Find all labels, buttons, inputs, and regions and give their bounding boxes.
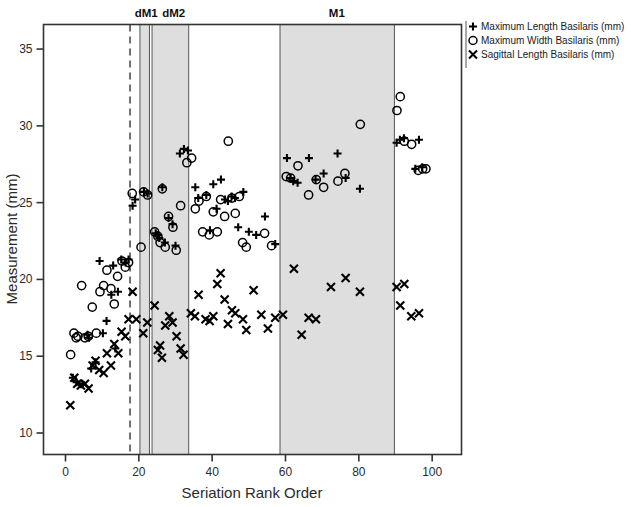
band-label-dM2: dM2 — [162, 7, 185, 19]
y-tick-label: 30 — [19, 119, 33, 133]
data-point — [191, 312, 199, 320]
data-point — [408, 140, 416, 148]
band-dM1 — [140, 25, 150, 455]
scatter-chart: 101520253035 020406080100 dM1dM2M1 Seria… — [0, 0, 631, 507]
data-point — [261, 229, 269, 237]
data-point — [242, 326, 250, 334]
y-axis-ticks: 101520253035 — [19, 42, 43, 440]
data-point — [217, 176, 225, 184]
data-point — [107, 361, 115, 369]
data-point — [113, 272, 121, 280]
data-point — [103, 266, 111, 274]
data-point — [221, 295, 229, 303]
data-point — [396, 302, 404, 310]
band-M1 — [280, 25, 394, 455]
data-point — [224, 320, 232, 328]
y-tick-label: 35 — [19, 42, 33, 56]
x-tick-label: 0 — [62, 465, 69, 479]
data-point — [224, 137, 232, 145]
plot-bands — [140, 25, 394, 455]
data-point — [121, 332, 129, 340]
data-point — [407, 312, 415, 320]
chart-canvas: 101520253035 020406080100 dM1dM2M1 Seria… — [0, 0, 631, 507]
y-tick-label: 10 — [19, 426, 33, 440]
x-axis-title: Seriation Rank Order — [182, 484, 323, 501]
y-tick-label: 25 — [19, 196, 33, 210]
y-tick-label: 20 — [19, 272, 33, 286]
data-point — [110, 340, 118, 348]
data-point — [78, 281, 86, 289]
legend-label: Maximum Length Basilaris (mm) — [481, 21, 624, 32]
data-point — [252, 231, 260, 239]
legend-label: Maximum Width Basilaris (mm) — [481, 35, 619, 46]
data-point — [261, 212, 269, 220]
legend: Maximum Length Basilaris (mm)Maximum Wid… — [466, 21, 624, 68]
data-point — [191, 183, 199, 191]
x-tick-label: 80 — [352, 465, 366, 479]
data-point — [103, 317, 111, 325]
y-tick-label: 15 — [19, 349, 33, 363]
data-point — [221, 212, 229, 220]
data-point — [110, 300, 118, 308]
band-label-dM1: dM1 — [135, 7, 159, 19]
legend-label: Sagittal Length Basilaris (mm) — [481, 49, 614, 60]
band-labels: dM1dM2M1 — [135, 7, 346, 19]
y-axis-title: Measurement (mm) — [3, 174, 20, 305]
legend-marker-plus — [469, 23, 477, 31]
data-point — [217, 269, 225, 277]
data-point — [239, 315, 247, 323]
data-point — [415, 309, 423, 317]
data-point — [213, 280, 221, 288]
x-tick-label: 40 — [205, 465, 219, 479]
data-point — [67, 351, 75, 359]
data-point — [125, 315, 133, 323]
data-point — [250, 286, 258, 294]
plot-frame — [44, 25, 462, 455]
data-point — [132, 315, 140, 323]
x-tick-label: 20 — [132, 465, 146, 479]
legend-marker-cross — [469, 51, 477, 59]
data-point — [209, 180, 217, 188]
data-point — [66, 401, 74, 409]
data-point — [231, 209, 239, 217]
data-point — [96, 257, 104, 265]
data-point — [191, 205, 199, 213]
data-point — [257, 311, 265, 319]
x-tick-label: 60 — [279, 465, 293, 479]
data-point — [103, 349, 111, 357]
data-point — [114, 349, 122, 357]
data-point — [213, 228, 221, 236]
data-point — [85, 384, 93, 392]
legend-marker-circle — [469, 37, 477, 45]
data-point — [271, 314, 279, 322]
band-label-M1: M1 — [329, 7, 346, 19]
data-point — [234, 223, 242, 231]
data-point — [264, 325, 272, 333]
data-point — [415, 136, 423, 144]
data-point — [245, 228, 253, 236]
data-point — [231, 309, 239, 317]
x-tick-label: 100 — [422, 465, 442, 479]
data-point — [88, 303, 96, 311]
x-axis-ticks: 020406080100 — [62, 455, 442, 479]
data-point — [396, 93, 404, 101]
data-point — [400, 280, 408, 288]
data-point — [195, 291, 203, 299]
data-point — [209, 312, 217, 320]
